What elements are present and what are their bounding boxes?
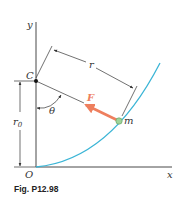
r0-label: r0	[13, 116, 23, 129]
point-c-label: C	[26, 70, 34, 81]
force-arrow	[86, 105, 117, 120]
figure-caption: Fig. P12.98	[14, 184, 59, 194]
force-label: F	[86, 92, 95, 103]
y-axis-label: y	[26, 19, 33, 30]
point-c-dot	[34, 79, 38, 83]
r0-subscript: 0	[18, 121, 23, 129]
x-axis-label: x	[167, 169, 173, 180]
r-dimension-line-right	[96, 68, 133, 88]
origin-label: O	[25, 169, 33, 180]
r-dimension-line-left	[54, 50, 86, 62]
mass-label: m	[124, 115, 133, 126]
r-label: r	[89, 59, 95, 70]
diagram-figure: y x O C r r0 θ F m Fig. P12.98	[0, 0, 184, 199]
theta-label: θ	[49, 105, 55, 116]
mass-particle	[116, 118, 122, 124]
r-extension-left	[36, 46, 52, 78]
radius-line	[36, 81, 84, 103]
